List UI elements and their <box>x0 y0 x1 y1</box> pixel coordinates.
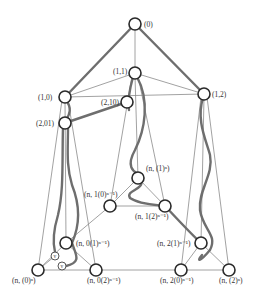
node-n-01n <box>60 237 72 249</box>
node-n-21n <box>195 237 207 249</box>
node-n-12n <box>159 200 171 212</box>
node-2-10 <box>121 96 133 108</box>
node-1-0 <box>59 91 71 103</box>
node-1-2 <box>198 88 210 100</box>
label-n-02n: (n, 0(2)ⁿ⁻¹) <box>87 276 121 285</box>
label-n-20n: (n, 2(0)ⁿ⁻¹) <box>160 276 194 285</box>
node-n-0n <box>32 264 44 276</box>
label-2-01: (2,01) <box>36 119 55 128</box>
label-n-2n: (n, (2)ⁿ) <box>219 276 243 285</box>
label-2-10: (2,10) <box>101 98 120 107</box>
label-n-12n: (n, 1(2)ⁿ⁻¹) <box>135 212 169 221</box>
node-n-1n <box>132 172 144 184</box>
label-v1: v <box>54 253 57 259</box>
label-v2: v <box>61 263 64 269</box>
label-n-21n: (n, 2(1)ⁿ⁻¹) <box>157 239 191 248</box>
label-n-1n: (n, (1)ⁿ) <box>146 164 170 173</box>
label-1-0: (1,0) <box>38 93 53 102</box>
label-1-1: (1,1) <box>113 67 128 76</box>
node-n-20n <box>175 264 187 276</box>
thick-path-edges <box>54 24 212 266</box>
node-2-01 <box>59 117 71 129</box>
node-1-1 <box>129 67 141 79</box>
node-n-02n <box>90 264 102 276</box>
node-root <box>129 18 141 30</box>
label-root: (0) <box>144 20 153 29</box>
node-n-2n <box>223 264 235 276</box>
tree-diagram: (0) (1,1) (1,0) (1,2) (2,10) (2,01) (n, … <box>0 0 258 301</box>
node-n-10n <box>104 200 116 212</box>
label-n-0n: (n, (0)ⁿ) <box>12 276 36 285</box>
label-n-01n: (n, 0(1)ⁿ⁻¹) <box>76 239 110 248</box>
label-1-2: (1,2) <box>212 90 227 99</box>
label-n-10n: (n, 1(0)ⁿ⁻¹) <box>84 190 118 199</box>
